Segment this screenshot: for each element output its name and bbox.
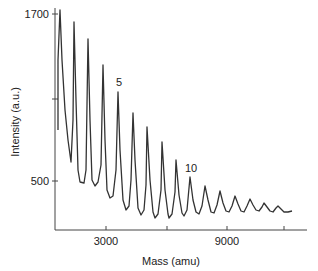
x-tick-label-3000: 3000 [94,235,118,247]
x-tick-label-9000: 9000 [215,235,239,247]
x-axis-title: Mass (amu) [142,255,200,267]
spectrum-line [58,10,292,218]
y-tick-label-1700: 1700 [25,8,49,20]
y-axis-title: Intensity (a.u.) [9,87,21,157]
peak-annotation-10: 10 [185,162,197,174]
peak-annotation-5: 5 [116,76,122,88]
y-tick-label-500: 500 [31,175,49,187]
mass-spectrum-chart: 1700 500 3000 9000 Mass (amu) Intensity … [0,0,318,271]
